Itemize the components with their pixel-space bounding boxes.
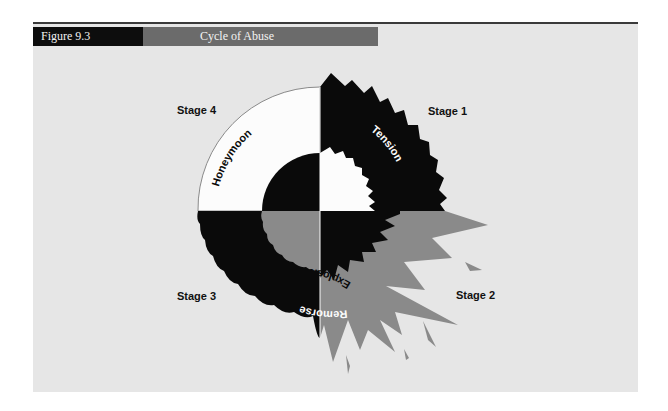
- stage-1-label: Stage 1: [428, 105, 467, 117]
- stage-3-label: Stage 3: [177, 290, 216, 302]
- stage-2-label: Stage 2: [456, 289, 495, 301]
- cycle-diagram: Honeymoon Tension Remorse Explosion Stag…: [0, 0, 668, 411]
- segment-honeymoon: [198, 87, 320, 211]
- stage-4-label: Stage 4: [177, 104, 217, 116]
